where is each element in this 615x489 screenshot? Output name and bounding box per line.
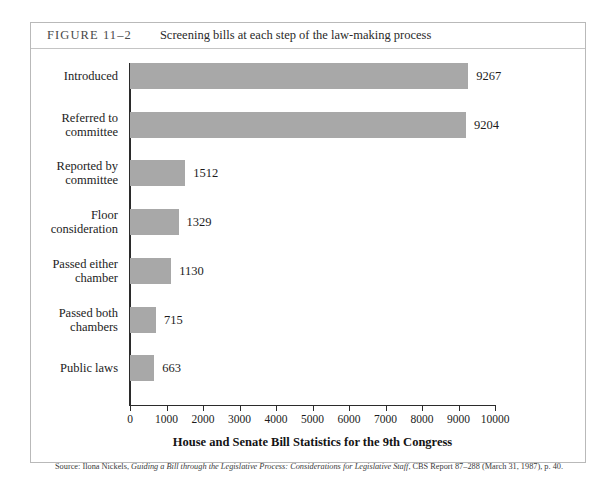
bar-rect: [130, 209, 179, 235]
bar-rect: [130, 258, 171, 284]
bar-row: Referred tocommittee9204: [31, 112, 585, 160]
bar-category-label: Introduced: [0, 69, 118, 83]
x-axis-tick-label: 7000: [374, 413, 397, 425]
figure-frame: FIGURE 11–2 Screening bills at each step…: [30, 22, 586, 463]
bar-category-label-line: Reported by: [0, 159, 118, 173]
bar-category-label-line: consideration: [0, 222, 118, 236]
x-axis-tick-mark: [240, 405, 241, 411]
bar-category-label-line: chambers: [0, 320, 118, 334]
x-axis-tick-label: 5000: [301, 413, 324, 425]
bar-category-label: Reported bycommittee: [0, 159, 118, 187]
x-axis-tick-mark: [495, 405, 496, 411]
bar-category-label: Public laws: [0, 361, 118, 375]
bar-value-label: 1130: [179, 264, 204, 279]
bar-category-label: Floorconsideration: [0, 208, 118, 236]
source-prefix: Source: Ilona Nickels,: [55, 462, 131, 471]
bar-category-label-line: Floor: [0, 208, 118, 222]
bar-category-label-line: Passed both: [0, 306, 118, 320]
x-axis-tick-mark: [349, 405, 350, 411]
x-axis-tick-label: 9000: [447, 413, 470, 425]
x-axis-tick-mark: [203, 405, 204, 411]
x-axis-tick-label: 8000: [411, 413, 434, 425]
bar-rect: [130, 63, 468, 89]
bar-row: Floorconsideration1329: [31, 209, 585, 257]
bar-category-label: Passed eitherchamber: [0, 257, 118, 285]
x-axis-tick-mark: [422, 405, 423, 411]
bar-value-label: 1329: [187, 215, 212, 230]
x-axis-tick-label: 10000: [481, 413, 510, 425]
source-title: Guiding a Bill through the Legislative P…: [131, 462, 408, 471]
x-axis-tick-label: 0: [127, 413, 133, 425]
bar-row: Passed bothchambers715: [31, 307, 585, 355]
x-axis-tick-label: 1000: [155, 413, 178, 425]
x-axis-tick-label: 6000: [338, 413, 361, 425]
bar-category-label: Referred tocommittee: [0, 111, 118, 139]
bar-value-label: 9204: [474, 118, 499, 133]
bar-row: Reported bycommittee1512: [31, 160, 585, 208]
x-axis-tick-mark: [459, 405, 460, 411]
bar-category-label-line: Referred to: [0, 111, 118, 125]
bar-category-label-line: Introduced: [0, 69, 118, 83]
x-axis-title: House and Senate Bill Statistics for the…: [129, 435, 496, 450]
bar-rect: [130, 307, 156, 333]
x-axis-tick-label: 3000: [228, 413, 251, 425]
bar-row: Public laws663: [31, 355, 585, 403]
bar-value-label: 663: [162, 361, 181, 376]
bar-value-label: 715: [164, 313, 183, 328]
figure-header: FIGURE 11–2 Screening bills at each step…: [31, 23, 585, 49]
bar-value-label: 9267: [476, 69, 501, 84]
bar-rect: [130, 355, 154, 381]
figure-number: FIGURE 11–2: [47, 28, 132, 43]
figure-caption: Screening bills at each step of the law-…: [160, 28, 431, 43]
chart-plot-area: Introduced9267Referred tocommittee9204Re…: [31, 49, 585, 462]
bar-category-label-line: chamber: [0, 271, 118, 285]
x-axis-tick-mark: [130, 405, 131, 411]
bar-category-label: Passed bothchambers: [0, 306, 118, 334]
x-axis-tick-label: 2000: [192, 413, 215, 425]
bar-rect: [130, 160, 185, 186]
x-axis-tick-mark: [276, 405, 277, 411]
bar-value-label: 1512: [193, 166, 218, 181]
bar-rect: [130, 112, 466, 138]
bar-category-label-line: Passed either: [0, 257, 118, 271]
x-axis-tick-mark: [313, 405, 314, 411]
bar-category-label-line: committee: [0, 125, 118, 139]
bar-row: Introduced9267: [31, 63, 585, 111]
source-suffix: , CBS Report 87–288 (March 31, 1987), p.…: [408, 462, 563, 471]
bar-row: Passed eitherchamber1130: [31, 258, 585, 306]
bar-category-label-line: Public laws: [0, 361, 118, 375]
x-axis-tick-mark: [167, 405, 168, 411]
bar-category-label-line: committee: [0, 173, 118, 187]
x-axis-tick-mark: [386, 405, 387, 411]
x-axis-tick-label: 4000: [265, 413, 288, 425]
source-note: Source: Ilona Nickels, Guiding a Bill th…: [55, 461, 571, 472]
